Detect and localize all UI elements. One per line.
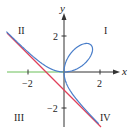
x-axis-arrow-icon xyxy=(113,70,120,75)
quadrant-label-IV: IV xyxy=(100,112,111,123)
y-axis-arrow-icon xyxy=(62,13,67,20)
x-tick-label-neg2: −2 xyxy=(22,78,33,89)
folium-diagram: −2 2 2 −2 x y II I III IV xyxy=(0,0,135,132)
quadrant-label-II: II xyxy=(18,25,25,36)
quadrant-label-I: I xyxy=(104,25,107,36)
y-tick-label-neg2: −2 xyxy=(47,103,58,114)
y-axis-label: y xyxy=(59,2,65,14)
x-axis-label: x xyxy=(121,65,127,77)
quadrant-label-III: III xyxy=(14,112,24,123)
x-tick-label-2: 2 xyxy=(97,78,102,89)
y-tick-label-2: 2 xyxy=(53,31,58,42)
